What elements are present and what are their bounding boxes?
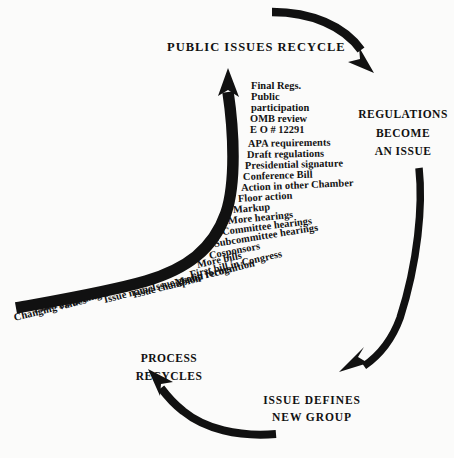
- step-label-layer: Final Regs.PublicparticipationOMB review…: [0, 0, 454, 458]
- process-step-label: OMB review: [250, 113, 307, 124]
- process-step-label: E O # 12291: [250, 124, 305, 135]
- process-step-label: participation: [251, 102, 309, 113]
- process-step-label: Public: [251, 91, 280, 102]
- process-step-label: Changing values: [13, 294, 88, 323]
- process-step-label: Final Regs.: [251, 80, 301, 91]
- diagram-canvas: PUBLIC ISSUES RECYCLE REGULATIONS BECOME…: [0, 0, 454, 458]
